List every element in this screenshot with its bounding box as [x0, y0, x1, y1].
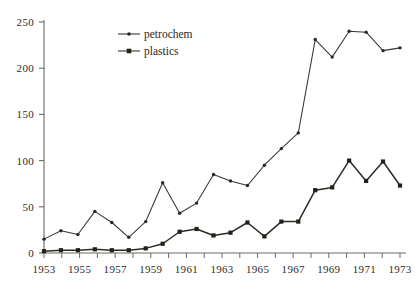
- data-point-petrochem: [59, 229, 62, 232]
- y-axis-tick-label: 0: [28, 247, 34, 259]
- data-point-plastics: [194, 227, 198, 231]
- data-point-plastics: [144, 246, 148, 250]
- data-point-petrochem: [110, 221, 113, 224]
- x-axis-tick-label: 1961: [175, 263, 198, 275]
- x-axis-tick-label: 1963: [210, 263, 233, 275]
- x-axis-tick-label: 1959: [139, 263, 162, 275]
- data-point-petrochem: [195, 201, 198, 204]
- y-axis-tick-label: 200: [17, 62, 35, 74]
- data-point-petrochem: [347, 30, 350, 33]
- x-axis-tick-label: 1973: [388, 263, 411, 275]
- data-point-petrochem: [229, 179, 232, 182]
- data-point-petrochem: [161, 181, 164, 184]
- y-axis-tick-label: 250: [17, 16, 35, 28]
- y-axis-tick-label: 100: [17, 155, 35, 167]
- series-line-petrochem: [44, 31, 400, 239]
- y-axis-tick-label: 150: [17, 108, 35, 120]
- data-point-plastics: [347, 159, 351, 163]
- data-point-plastics: [178, 230, 182, 234]
- data-point-plastics: [330, 185, 334, 189]
- data-point-petrochem: [364, 30, 367, 33]
- legend-marker-plastics: [127, 49, 132, 54]
- data-point-plastics: [127, 248, 131, 252]
- data-point-plastics: [296, 219, 300, 223]
- data-point-petrochem: [297, 131, 300, 134]
- data-point-plastics: [245, 220, 249, 224]
- data-point-plastics: [42, 249, 46, 253]
- x-axis-tick-label: 1957: [104, 263, 127, 275]
- data-point-plastics: [364, 179, 368, 183]
- data-point-plastics: [211, 233, 215, 237]
- x-axis-tick-label: 1967: [282, 263, 305, 275]
- data-point-petrochem: [212, 173, 215, 176]
- data-point-petrochem: [76, 233, 79, 236]
- data-point-plastics: [262, 234, 266, 238]
- line-chart: 0501001502002501953195519571959196119631…: [0, 0, 415, 289]
- data-point-petrochem: [381, 49, 384, 52]
- data-point-petrochem: [93, 210, 96, 213]
- data-point-plastics: [93, 247, 97, 251]
- data-point-petrochem: [263, 164, 266, 167]
- x-axis-tick-label: 1965: [246, 263, 269, 275]
- data-point-plastics: [381, 159, 385, 163]
- data-point-petrochem: [280, 147, 283, 150]
- data-point-plastics: [59, 248, 63, 252]
- x-axis-tick-label: 1969: [317, 263, 340, 275]
- data-point-plastics: [76, 248, 80, 252]
- legend-label-plastics: plastics: [144, 45, 179, 58]
- data-point-petrochem: [398, 46, 401, 49]
- legend-label-petrochem: petrochem: [144, 28, 193, 41]
- data-point-plastics: [161, 242, 165, 246]
- data-point-plastics: [313, 188, 317, 192]
- legend-marker-petrochem: [127, 32, 131, 36]
- data-point-petrochem: [330, 55, 333, 58]
- data-point-plastics: [398, 183, 402, 187]
- data-point-petrochem: [178, 212, 181, 215]
- x-axis-tick-label: 1955: [68, 263, 91, 275]
- data-point-plastics: [228, 231, 232, 235]
- data-point-plastics: [110, 248, 114, 252]
- data-point-petrochem: [246, 184, 249, 187]
- x-axis-tick-label: 1971: [353, 263, 376, 275]
- data-point-petrochem: [127, 236, 130, 239]
- data-point-petrochem: [314, 38, 317, 41]
- y-axis-tick-label: 50: [22, 201, 34, 213]
- data-point-petrochem: [144, 220, 147, 223]
- chart-canvas: 0501001502002501953195519571959196119631…: [0, 0, 415, 289]
- x-axis-tick-label: 1953: [32, 263, 55, 275]
- data-point-petrochem: [42, 237, 45, 240]
- data-point-plastics: [279, 219, 283, 223]
- series-line-plastics: [44, 161, 400, 252]
